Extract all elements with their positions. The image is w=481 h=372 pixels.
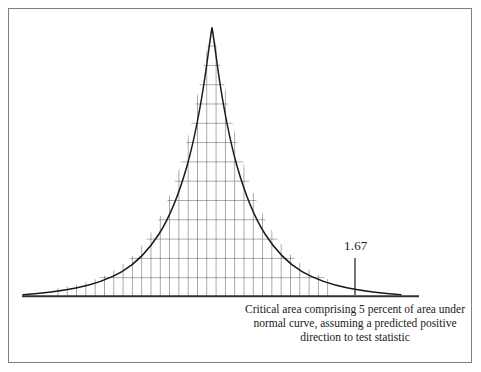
caption-line-3: direction to test statistic [238,330,472,344]
caption-line-1: Critical area comprising 5 percent of ar… [238,302,472,316]
figure-caption: Critical area comprising 5 percent of ar… [238,302,472,345]
critical-value-label: 1.67 [344,238,368,254]
figure-root: 1.67 Critical area comprising 5 percent … [0,0,481,372]
shaded-area-hatching [50,20,342,297]
caption-line-2: normal curve, assuming a predicted posit… [238,316,472,330]
